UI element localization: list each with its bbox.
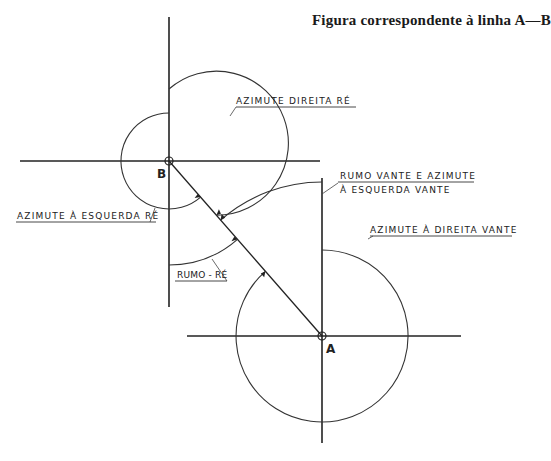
label-rumo-re: RUMO - RÉ — [177, 269, 228, 280]
label-azimute-esquerda-re: AZIMUTE À ESQUERDA RÉ — [17, 210, 159, 221]
arc-rumo-vante — [221, 182, 322, 220]
arc-rumo-re — [169, 239, 238, 265]
leader-azimute-direita-re — [230, 107, 236, 116]
label-rumo-vante-line2: À ESQUERDA VANTE — [340, 184, 451, 195]
label-azimute-direita-re: AZIMUTE DIREITA RÉ — [236, 95, 351, 106]
line-a-b — [169, 161, 322, 336]
label-azimute-direita-vante: AZIMUTE À DIREITA VANTE — [370, 224, 518, 235]
arrow-azimute-direita-re — [216, 209, 221, 215]
leader-rumo-vante — [322, 183, 338, 194]
label-rumo-vante-line1: RUMO VANTE E AZIMUTE — [340, 171, 476, 181]
point-a-label: A — [326, 342, 336, 356]
point-b-label: B — [157, 167, 166, 181]
arc-azimute-direita-re — [169, 71, 288, 215]
